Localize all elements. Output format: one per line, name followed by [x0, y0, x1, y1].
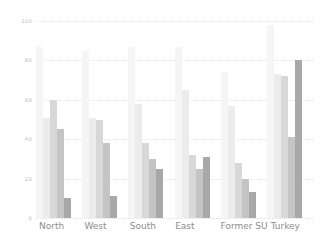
bar	[281, 76, 288, 218]
y-tick-label: 100	[21, 18, 32, 24]
x-tick-label: West	[81, 221, 126, 241]
bar	[221, 72, 228, 218]
bar	[274, 74, 281, 218]
bar-group	[36, 21, 82, 218]
bar	[196, 169, 203, 218]
bar-group	[82, 21, 128, 218]
y-axis: 020406080100	[0, 21, 32, 218]
bar	[175, 47, 182, 218]
x-axis-labels: NorthWestSouthEastFormer SUTurkey	[36, 221, 313, 241]
bar	[135, 104, 142, 218]
bar	[203, 157, 210, 218]
y-tick-label: 20	[25, 176, 32, 182]
bar-group	[267, 21, 313, 218]
bar	[242, 179, 249, 218]
x-tick-label: Former SU	[218, 221, 268, 241]
y-tick-label: 80	[25, 57, 32, 63]
bar-group	[221, 21, 267, 218]
bar	[64, 198, 71, 218]
bar	[36, 47, 43, 218]
bar-groups	[36, 21, 313, 218]
bar	[228, 106, 235, 218]
bar	[110, 196, 117, 218]
bar	[235, 163, 242, 218]
gridline	[36, 218, 313, 219]
bar-group	[128, 21, 174, 218]
bar-chart: 020406080100 NorthWestSouthEastFormer SU…	[0, 0, 321, 249]
y-tick-label: 60	[25, 97, 32, 103]
x-tick-label: South	[127, 221, 172, 241]
bar	[50, 100, 57, 218]
bar	[82, 51, 89, 218]
bar	[156, 169, 163, 218]
y-tick-label: 0	[28, 215, 32, 221]
bar	[89, 118, 96, 218]
bar	[189, 155, 196, 218]
x-tick-label: Turkey	[268, 221, 313, 241]
bar	[288, 137, 295, 218]
bar	[182, 90, 189, 218]
bar	[149, 159, 156, 218]
bar	[295, 60, 302, 218]
bar	[96, 120, 103, 219]
bar	[57, 129, 64, 218]
y-tick-label: 40	[25, 136, 32, 142]
bar	[142, 143, 149, 218]
bar-group	[175, 21, 221, 218]
x-tick-label: East	[172, 221, 217, 241]
bar	[249, 192, 256, 218]
bar	[267, 25, 274, 218]
x-tick-label: North	[36, 221, 81, 241]
plot-area	[36, 21, 313, 218]
bar	[43, 118, 50, 218]
bar	[103, 143, 110, 218]
bar	[128, 47, 135, 218]
